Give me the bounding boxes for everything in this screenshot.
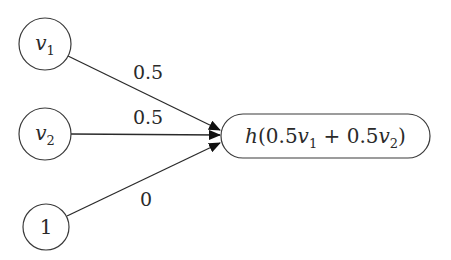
output-v1-sub: 1 (309, 136, 317, 151)
output-func-h: h (245, 124, 258, 148)
node-v1-var: v (35, 31, 47, 55)
input-node-v2: v2 (19, 108, 71, 160)
node-v2-subscript: 2 (47, 133, 55, 148)
weight-label-v2: 0.5 (133, 106, 163, 128)
output-v2-var: v (378, 124, 390, 148)
output-plus: + 0.5 (317, 124, 378, 148)
output-v2-sub: 2 (390, 136, 398, 151)
output-close: ) (398, 124, 406, 148)
bias-node-label: 1 (40, 215, 53, 239)
input-node-v1: v1 (19, 18, 71, 70)
node-v2-var: v (35, 121, 47, 145)
output-v1-var: v (298, 124, 310, 148)
node-v1-subscript: 1 (47, 43, 55, 58)
weight-label-bias: 0 (140, 188, 152, 210)
bias-node: 1 (23, 204, 69, 250)
svg-text:h(0.5v1 + 0.5v2): h(0.5v1 + 0.5v2) (245, 124, 406, 151)
edge-v2-to-output (71, 134, 220, 135)
weight-label-v1: 0.5 (133, 61, 163, 83)
output-open: (0.5 (258, 124, 298, 148)
output-node: h(0.5v1 + 0.5v2) (221, 114, 430, 158)
neuron-diagram: 0.5 0.5 0 v1 v2 1 h(0.5v1 + 0.5v2) (0, 0, 451, 260)
